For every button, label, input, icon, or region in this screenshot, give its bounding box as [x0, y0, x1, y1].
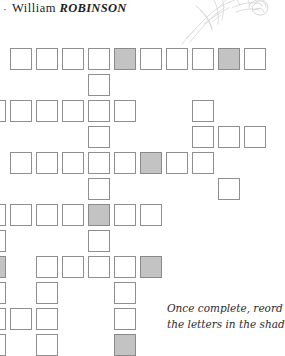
grid-cell[interactable] — [10, 152, 32, 174]
grid-cell[interactable] — [140, 204, 162, 226]
grid-cell-shaded[interactable] — [0, 256, 6, 278]
grid-cell[interactable] — [36, 48, 58, 70]
grid-cell[interactable] — [166, 152, 188, 174]
grid-cell-shaded[interactable] — [114, 48, 136, 70]
grid-cell[interactable] — [10, 100, 32, 122]
grid-cell-shaded[interactable] — [140, 152, 162, 174]
instruction-line-2: the letters in the shad — [167, 316, 279, 332]
grid-cell[interactable] — [114, 152, 136, 174]
grid-cell[interactable] — [88, 152, 110, 174]
grid-cell-shaded[interactable] — [140, 256, 162, 278]
grid-cell[interactable] — [62, 48, 84, 70]
grid-cell[interactable] — [88, 74, 110, 96]
grid-cell[interactable] — [0, 334, 6, 356]
grid-cell[interactable] — [88, 100, 110, 122]
instruction-text: Once complete, reord the letters in the … — [167, 300, 279, 332]
grid-cell[interactable] — [244, 126, 266, 148]
grid-cell[interactable] — [0, 282, 6, 304]
grid-cell[interactable] — [0, 308, 6, 330]
grid-cell-shaded[interactable] — [114, 334, 136, 356]
grid-cell[interactable] — [0, 230, 6, 252]
grid-cell[interactable] — [10, 204, 32, 226]
grid-cell[interactable] — [0, 204, 6, 226]
grid-cell[interactable] — [88, 178, 110, 200]
grid-cell[interactable] — [140, 48, 162, 70]
grid-cell-shaded[interactable] — [88, 204, 110, 226]
grid-cell[interactable] — [10, 48, 32, 70]
grid-cell[interactable] — [62, 256, 84, 278]
grid-cell[interactable] — [36, 100, 58, 122]
grid-cell[interactable] — [62, 100, 84, 122]
grid-cell[interactable] — [36, 334, 58, 356]
grid-cell[interactable] — [88, 256, 110, 278]
grid-cell[interactable] — [62, 152, 84, 174]
grid-cell[interactable] — [88, 48, 110, 70]
instruction-line-1: Once complete, reord — [167, 300, 279, 316]
grid-cell[interactable] — [192, 152, 214, 174]
grid-cell[interactable] — [114, 308, 136, 330]
grid-cell[interactable] — [192, 48, 214, 70]
grid-cell[interactable] — [0, 100, 6, 122]
grid-cell[interactable] — [244, 48, 266, 70]
grid-cell[interactable] — [36, 308, 58, 330]
grid-cell[interactable] — [192, 100, 214, 122]
grid-cell[interactable] — [88, 126, 110, 148]
grid-cell[interactable] — [166, 48, 188, 70]
grid-cell-shaded[interactable] — [218, 48, 240, 70]
grid-cell[interactable] — [62, 204, 84, 226]
grid-cell[interactable] — [36, 282, 58, 304]
grid-cell[interactable] — [114, 256, 136, 278]
grid-cell[interactable] — [114, 100, 136, 122]
grid-cell[interactable] — [114, 282, 136, 304]
grid-cell[interactable] — [114, 204, 136, 226]
grid-cell[interactable] — [36, 204, 58, 226]
grid-cell[interactable] — [36, 152, 58, 174]
grid-cell[interactable] — [218, 178, 240, 200]
grid-cell[interactable] — [10, 308, 32, 330]
grid-cell[interactable] — [218, 126, 240, 148]
grid-cell[interactable] — [192, 126, 214, 148]
grid-cell[interactable] — [36, 256, 58, 278]
grid-cell[interactable] — [88, 230, 110, 252]
